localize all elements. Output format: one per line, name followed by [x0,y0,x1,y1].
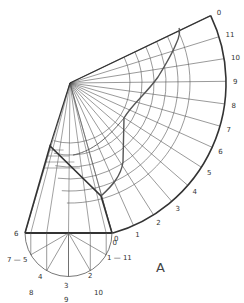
arc-label: 1 [135,231,139,239]
true-shape-curve [101,28,180,196]
radial-line [70,83,172,201]
semicircle-radius [69,233,91,271]
semicircle-label: 8 [29,289,33,297]
diagram-canvas: 012345678910110 607 — 51 — 114839210 A [0,0,244,303]
arc-label: 10 [231,54,240,62]
semicircle-label: 2 [88,272,92,280]
arc-label: 5 [207,169,211,177]
cone-development-diagram: 012345678910110 607 — 51 — 114839210 A [0,0,244,303]
semicircle-label: 0 [114,235,118,243]
inner-arc [55,47,154,167]
radial-line [70,83,154,215]
generator-line [70,83,106,233]
semicircle-radius [69,233,107,255]
arc-label: 2 [156,219,160,227]
semicircle-label: 4 [38,273,43,281]
arc-label: 7 [227,126,231,134]
radial-line [70,83,201,167]
radial-line [70,83,220,126]
arc-label: 9 [233,78,237,86]
arc-label: 0 [217,9,221,17]
semicircle-radius [47,233,69,271]
semicircle-label: 6 [14,230,19,238]
development-curve [73,28,180,196]
apex-edge [50,83,70,146]
inner-arc [54,52,142,155]
arc-label: 4 [193,188,198,196]
semicircle-label: 9 [64,296,68,303]
radial-line [70,59,224,83]
radial-line [70,37,219,83]
radial-lines [25,16,226,234]
semicircle-label: 1 — 11 [107,254,132,262]
semicircle-radius [31,233,69,255]
figure-label: A [156,260,165,275]
semicircle-label: 3 [64,282,68,290]
arc-label: 6 [218,148,223,156]
arc-label: 11 [226,31,235,39]
semicircle-label: 10 [94,289,103,297]
base-semicircle [25,233,112,277]
outer-arc [112,16,226,234]
arc-label: 3 [176,205,180,213]
radial-line [70,83,188,185]
generator-line [69,83,71,233]
radial-line [70,81,226,83]
semicircle-label: 7 — 5 [7,256,27,264]
arc-label: 8 [232,102,236,110]
